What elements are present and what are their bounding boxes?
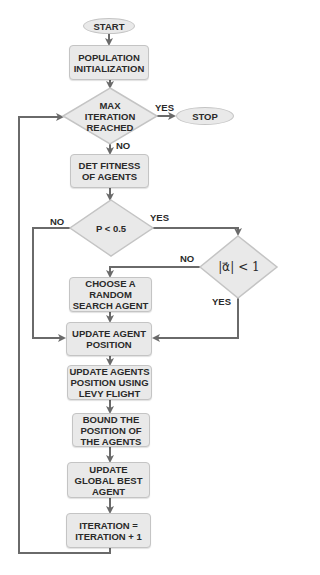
stop-label: STOP bbox=[192, 111, 218, 122]
max-no-label: NO bbox=[116, 140, 130, 151]
alpha-condition-label: |α⃗| < 1 bbox=[218, 262, 259, 273]
iteration-increment-label: ITERATION = ITERATION + 1 bbox=[73, 520, 145, 542]
update-global-best-label: UPDATE GLOBAL BEST AGENT bbox=[72, 464, 146, 497]
bound-position-box: BOUND THE POSITION OF THE AGENTS bbox=[72, 413, 150, 447]
det-fitness-label: DET FITNESS OF AGENTS bbox=[78, 160, 142, 182]
alpha-yes-label: YES bbox=[212, 296, 231, 307]
p-no-label: NO bbox=[50, 216, 64, 227]
max-yes-label: YES bbox=[155, 102, 174, 113]
alpha-no-label: NO bbox=[180, 253, 194, 264]
update-global-best-box: UPDATE GLOBAL BEST AGENT bbox=[67, 462, 150, 498]
max-iteration-line2: ITERATION bbox=[85, 111, 136, 122]
start-label: START bbox=[94, 21, 125, 32]
choose-random-agent-box: CHOOSE A RANDOM SEARCH AGENT bbox=[69, 277, 152, 312]
levy-flight-label: UPDATE AGENTS POSITION USING LEVY FLIGHT bbox=[69, 366, 151, 399]
p-yes-label: YES bbox=[150, 212, 169, 223]
det-fitness-box: DET FITNESS OF AGENTS bbox=[70, 154, 149, 188]
levy-flight-box: UPDATE AGENTS POSITION USING LEVY FLIGHT bbox=[67, 365, 152, 400]
p-condition-text: P < 0.5 bbox=[80, 220, 142, 236]
choose-random-agent-label: CHOOSE A RANDOM SEARCH AGENT bbox=[72, 278, 150, 311]
max-iteration-line1: MAX bbox=[99, 100, 120, 111]
max-iteration-text: MAX ITERATION REACHED bbox=[70, 98, 150, 134]
start-terminal: START bbox=[83, 18, 135, 34]
population-initialization-box: POPULATION INITIALIZATION bbox=[69, 45, 149, 80]
update-agent-position-box: UPDATE AGENT POSITION bbox=[66, 322, 152, 356]
stop-terminal: STOP bbox=[176, 107, 234, 125]
p-condition-label: P < 0.5 bbox=[96, 223, 126, 234]
alpha-condition-text: |α⃗| < 1 bbox=[208, 258, 270, 276]
max-iteration-line3: REACHED bbox=[87, 122, 134, 133]
population-initialization-label: POPULATION INITIALIZATION bbox=[70, 52, 148, 74]
bound-position-label: BOUND THE POSITION OF THE AGENTS bbox=[76, 414, 146, 447]
iteration-increment-box: ITERATION = ITERATION + 1 bbox=[66, 513, 151, 548]
update-agent-position-label: UPDATE AGENT POSITION bbox=[70, 328, 148, 350]
